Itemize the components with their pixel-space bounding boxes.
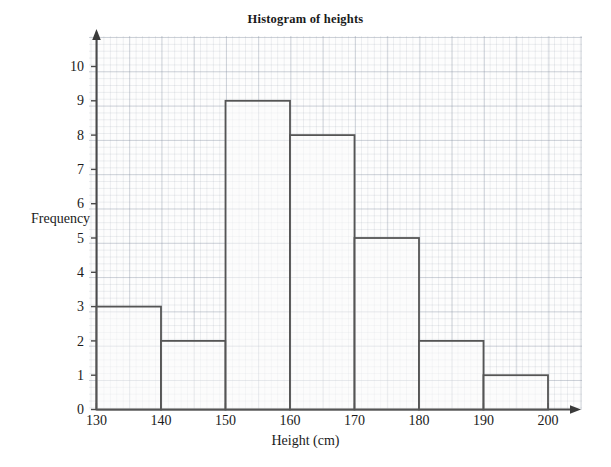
y-tick-label-6: 6	[58, 197, 84, 211]
x-tick-label-200: 200	[528, 414, 568, 428]
y-axis-title: Frequency	[31, 212, 90, 226]
y-tick-label-1: 1	[58, 369, 84, 383]
histogram-chart: Histogram of heights Frequency Height (c…	[0, 0, 611, 467]
bar-130-140	[97, 307, 162, 410]
y-tick-label-7: 7	[58, 163, 84, 177]
x-tick-label-150: 150	[206, 414, 246, 428]
chart-title: Histogram of heights	[0, 13, 611, 26]
y-tick-label-2: 2	[58, 335, 84, 349]
y-tick-label-10: 10	[58, 60, 84, 74]
y-tick-label-4: 4	[58, 266, 84, 280]
bar-150-160	[226, 101, 291, 410]
y-tick-label-9: 9	[58, 94, 84, 108]
plot-area	[0, 0, 611, 467]
y-tick-label-8: 8	[58, 129, 84, 143]
x-tick-label-180: 180	[399, 414, 439, 428]
bar-140-150	[161, 341, 226, 410]
x-tick-label-130: 130	[77, 414, 117, 428]
x-axis-title: Height (cm)	[0, 434, 611, 448]
y-tick-label-5: 5	[58, 232, 84, 246]
bar-170-180	[355, 238, 420, 410]
x-tick-label-160: 160	[270, 414, 310, 428]
x-tick-label-170: 170	[335, 414, 375, 428]
bar-160-170	[290, 135, 355, 409]
x-tick-label-140: 140	[141, 414, 181, 428]
histogram-bars	[97, 101, 549, 410]
bar-190-200	[484, 375, 549, 409]
bar-180-190	[419, 341, 484, 410]
x-tick-label-190: 190	[464, 414, 504, 428]
y-tick-label-3: 3	[58, 300, 84, 314]
